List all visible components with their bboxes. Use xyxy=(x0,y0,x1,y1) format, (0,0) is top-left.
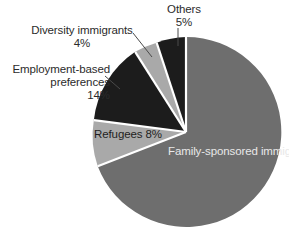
label-diversity-immigrants: Diversity immigrants 4% xyxy=(26,24,138,50)
label-employment-name-line1: Employment-based xyxy=(13,63,110,75)
label-diversity-name: Diversity immigrants xyxy=(31,24,133,36)
label-refugees-name: Refugees xyxy=(94,128,142,140)
label-employment-name-line2: preferences xyxy=(4,76,110,89)
label-family-name-line2: immigrants xyxy=(261,145,289,157)
label-others-name: Others xyxy=(167,3,201,15)
label-diversity-value: 4% xyxy=(26,37,138,50)
pie-chart: Others 5% Diversity immigrants 4% Employ… xyxy=(0,0,289,232)
label-others: Others 5% xyxy=(152,3,216,29)
label-employment-based-preferences: Employment-based preferences 14% xyxy=(4,63,110,102)
label-others-value: 5% xyxy=(152,16,216,29)
label-employment-value: 14% xyxy=(4,89,110,102)
label-refugees-value: 8% xyxy=(146,128,162,140)
label-refugees: Refugees 8% xyxy=(94,128,154,141)
label-family-name-line1: Family-sponsored xyxy=(168,145,258,157)
label-family-sponsored-immigrants: Family-sponsored immigrants 69% xyxy=(168,145,268,158)
